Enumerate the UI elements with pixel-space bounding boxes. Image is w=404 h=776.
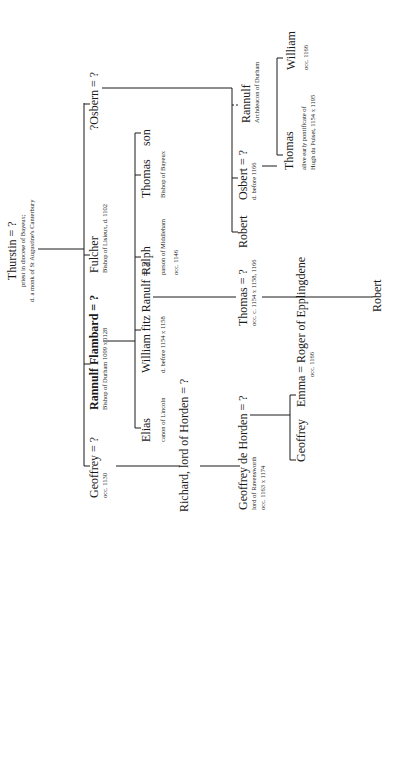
person-name: Richard, lord of Horden = ? — [178, 379, 190, 512]
person-note: parson of Middleham — [160, 219, 167, 275]
person-note: occ. 1146 — [173, 219, 180, 275]
person-name: Robert — [371, 279, 383, 312]
person-name: Geoffrey = ? — [88, 437, 100, 498]
person-note: d. a monk of St Augustine's Canterbury — [29, 200, 36, 302]
node-son: son — [140, 129, 152, 146]
person-note: d. before 1166 — [251, 150, 258, 200]
person-note: canon of Lincoln — [160, 398, 167, 442]
person-name: Geoffrey de Horden = ? — [237, 396, 249, 511]
node-rannulf-archdeacon: Rannulf Archdeacon of Durham — [240, 62, 261, 123]
person-note: occ. 1166 — [303, 31, 310, 70]
node-osbern: ?Osbern = ? — [88, 72, 100, 130]
person-note: Bishop of Bayeux — [160, 151, 167, 198]
node-thomas-hugh: Thomas alive early pontificate of Hugh d… — [283, 95, 316, 170]
person-name: William fitz Ranulf = ? — [140, 261, 152, 373]
person-name: Thomas — [283, 95, 295, 170]
node-robert-son-of-osbern: Robert — [237, 215, 249, 248]
node-robert-son-of-thomas: Robert — [371, 279, 383, 312]
person-name: Emma = Roger of Epplingdene — [295, 257, 307, 407]
node-emma: Emma = Roger of Epplingdene occ. 1166 — [295, 257, 316, 407]
tree-connector-lines — [0, 0, 404, 776]
node-thomas-occ: Thomas = ? occ. c. 1154 x 1158, 1166 — [237, 260, 258, 326]
person-note: Bishop of Lisieux, d. 1102 — [102, 204, 109, 273]
node-richard: Richard, lord of Horden = ? — [178, 379, 190, 512]
person-note: occ. 1166 — [309, 257, 316, 407]
node-elias: Elias canon of Lincoln — [140, 398, 167, 442]
person-name: Ralph — [140, 219, 152, 275]
person-name: son — [140, 129, 152, 146]
person-note: lord of Ravensworth — [251, 396, 258, 511]
node-geoffrey-de-horden: Geoffrey de Horden = ? lord of Ravenswor… — [237, 396, 266, 511]
person-note: Hugh du Puiset, 1154 x 1195 — [310, 95, 317, 170]
person-name: Robert — [237, 215, 249, 248]
node-geoffrey: Geoffrey = ? occ. 1130 — [88, 437, 109, 498]
person-note: alive early pontificate of — [301, 95, 308, 170]
node-william-son-of-osbert: William occ. 1166 — [285, 31, 310, 70]
person-note: occ. 1163 x 1174 — [260, 396, 267, 511]
person-note: occ. 1130 — [102, 437, 109, 498]
person-name: William — [285, 31, 297, 70]
person-note: occ. c. 1154 x 1158, 1166 — [251, 260, 258, 326]
node-thomas-bishop-bayeux: Thomas Bishop of Bayeux — [140, 151, 167, 198]
node-william-fitz-ranulf: William fitz Ranulf = ? d. before 1154 x… — [140, 261, 167, 373]
person-name: Thomas = ? — [237, 260, 249, 326]
person-name: Rannulf — [240, 62, 252, 123]
node-rannulf-flambard: Rannulf Flambard = ? Bishop of Durham 10… — [88, 295, 109, 410]
person-note: Archdeacon of Durham — [254, 62, 261, 123]
person-name: Osbert = ? — [237, 150, 249, 200]
person-name: Fulcher — [88, 204, 100, 273]
person-name: Rannulf Flambard = ? — [88, 295, 100, 410]
node-fulcher: Fulcher Bishop of Lisieux, d. 1102 — [88, 204, 109, 273]
node-osbert: Osbert = ? d. before 1166 — [237, 150, 258, 200]
person-name: Elias — [140, 398, 152, 442]
person-name: Thomas — [140, 151, 152, 198]
person-note: Bishop of Durham 1099 x 1128 — [102, 295, 109, 410]
person-note: priest in diocese of Bayeux; — [20, 200, 27, 302]
person-name: ?Osbern = ? — [88, 72, 100, 130]
person-name: Thurstin = ? — [6, 200, 18, 302]
node-thurstin: Thurstin = ? priest in diocese of Bayeux… — [6, 200, 35, 302]
person-name: Geoffrey — [295, 419, 307, 462]
node-geoffrey-child: Geoffrey — [295, 419, 307, 462]
person-note: d. before 1154 x 1158 — [160, 261, 167, 373]
node-ralph: Ralph parson of Middleham occ. 1146 — [140, 219, 179, 275]
